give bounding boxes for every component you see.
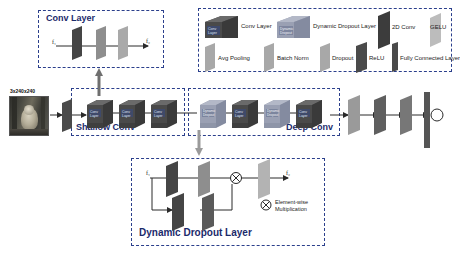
tail-fully-connected-bar: [424, 92, 430, 148]
shallow-block-3-caption: Conv Layer: [154, 110, 166, 118]
elementwise-note-line2: Multiplication: [275, 206, 307, 212]
legend-label-dynamic-dropout-layer: Dynamic Dropout Layer: [313, 23, 376, 29]
legend-label-2d-conv: 2D Conv: [392, 24, 415, 30]
conv-detail-input-label: f₁: [52, 39, 56, 45]
legend-item-dropout: [320, 43, 330, 72]
legend-item-relu: [356, 42, 367, 73]
dd-output-label: f₂: [286, 170, 290, 176]
output-node: [431, 109, 443, 121]
shallow-block-2-caption: Conv Layer: [122, 110, 134, 118]
legend-label-conv-layer: Conv Layer: [241, 23, 272, 29]
legend-label-gelu: GELU: [430, 24, 446, 30]
legend-item-fully-connected-layer: [392, 42, 398, 72]
legend-label-dropout: Dropout: [332, 55, 353, 61]
conv-layer-detail-contents: f₁ f₂: [52, 26, 150, 60]
legend-label-relu: ReLU: [369, 55, 384, 61]
shallow-conv-callout-arrow: [95, 68, 103, 96]
legend-item-gelu: [430, 13, 441, 47]
deep-conv-callout-arrow: [195, 130, 203, 156]
legend-cube-caption-dropout: Dynamic Dropout: [280, 27, 294, 36]
dd-top-slab-1: [166, 161, 178, 197]
deep-block-2-caption: Conv Layer: [235, 110, 247, 118]
dynamic-dropout-detail-contents: f₁ f₂: [146, 159, 290, 231]
deep-block-3-caption: Dynamic Dropout: [267, 110, 279, 118]
dd-bottom-slab-1: [172, 193, 184, 231]
legend-label-batch-norm: Batch Norm: [277, 55, 309, 61]
legend-label-fully-connected-layer: Fully Connected Layer: [400, 55, 460, 61]
conv-detail-output-label: f₂: [146, 38, 150, 44]
tail-slab-2: [374, 95, 386, 135]
legend-item-avg-pooling: [205, 43, 215, 72]
tail-slab-1: [348, 95, 360, 135]
tail-slab-3: [400, 95, 412, 135]
dd-top-slab-2: [198, 161, 210, 197]
elementwise-note-line1: Element-wise: [275, 199, 308, 205]
dd-input-label: f₁: [146, 170, 150, 176]
legend-label-avg-pooling: Avg Pooling: [218, 55, 250, 61]
dd-output-slab: [258, 159, 270, 199]
deep-block-4-caption: Conv Layer: [299, 110, 311, 118]
legend-item-batch-norm: [264, 43, 274, 72]
input-projection-slab: [62, 99, 72, 132]
dd-bottom-slab-2: [202, 193, 214, 231]
legend-cube-caption-conv: Conv Layer: [208, 27, 222, 36]
shallow-block-1-caption: Conv Layer: [90, 110, 102, 118]
legend-item-2d-conv: [378, 11, 390, 49]
deep-block-1-caption: Dynamic Dropout: [203, 110, 215, 118]
